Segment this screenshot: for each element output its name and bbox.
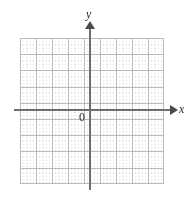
major-gridlines [20, 38, 164, 184]
origin-label: 0 [79, 111, 85, 123]
y-axis-label: y [86, 8, 91, 20]
x-axis-arrowhead-icon [170, 105, 178, 115]
grid-bottom-edge [20, 183, 164, 184]
y-axis-arrowhead-icon [85, 21, 95, 29]
graph-paper-grid [20, 38, 164, 184]
x-axis-label: x [179, 103, 184, 115]
coordinate-grid-figure: x y 0 [0, 0, 192, 202]
grid-right-edge [163, 38, 164, 184]
x-axis-line [14, 109, 173, 111]
y-axis-line [89, 28, 91, 190]
